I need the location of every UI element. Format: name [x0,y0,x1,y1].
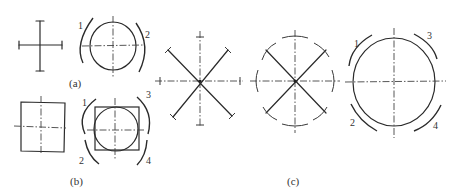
caption-b: (b) [70,175,83,188]
arc-2 [136,23,145,72]
circle-shape [82,16,144,78]
arc-label-2: 2 [79,155,84,166]
square-with-circle [87,98,144,160]
cross-shape [19,21,62,71]
square-shape [14,96,66,155]
caption-c: (c) [287,175,300,188]
panel-b: 1 2 3 4 (b) [14,89,151,188]
arc-label-1: 1 [354,38,359,49]
panel-a: 1 2 (a) [19,16,150,90]
arc-label-3: 3 [146,89,151,100]
arc-label-4: 4 [146,155,151,166]
arc-label-2: 2 [145,29,150,40]
diagram-figure: 1 2 (a) 1 2 3 4 (b) [0,0,453,194]
star-shape [155,31,243,127]
caption-a: (a) [69,77,82,90]
star-with-arcs [250,30,340,133]
arc-label-4: 4 [433,120,438,131]
arc-label-1: 1 [82,97,87,108]
arc-label-3: 3 [427,30,432,41]
arc-1 [349,35,372,66]
panel-c: 1 2 3 4 (c) [155,28,446,188]
arc-label-2: 2 [350,117,355,128]
arc-label-1: 1 [78,20,83,31]
arc-2 [85,140,99,164]
